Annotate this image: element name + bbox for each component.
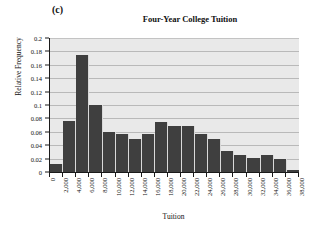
x-tick-label: 22,000: [193, 178, 200, 196]
x-tick-label: 34,000: [272, 178, 279, 196]
histogram-bar: [261, 155, 274, 172]
x-tick-label: 6,000: [88, 178, 95, 193]
histogram-bar: [50, 164, 63, 172]
histogram-bar: [129, 139, 142, 173]
x-tick-mark: [206, 173, 207, 177]
x-tick-mark: [246, 173, 247, 177]
x-tick-mark: [128, 173, 129, 177]
x-tick-label: 16,000: [154, 178, 161, 196]
x-axis-ticks: 02,0004,0006,0008,00010,00012,00014,0001…: [49, 173, 298, 213]
x-tick-mark: [75, 173, 76, 177]
y-tick-label: 0.14: [31, 75, 42, 82]
histogram-bar: [142, 134, 155, 172]
histogram-bar: [234, 155, 247, 172]
x-tick-mark: [219, 173, 220, 177]
x-tick-label: 8,000: [101, 178, 108, 193]
histogram-bar: [89, 105, 102, 172]
x-tick-mark: [88, 173, 89, 177]
histogram-bar: [103, 132, 116, 172]
x-tick-label: 26,000: [219, 178, 226, 196]
x-tick-label: 4,000: [75, 178, 82, 193]
histogram-bar: [182, 126, 195, 172]
y-tick-label: 0.2: [34, 35, 42, 42]
x-tick-label: 30,000: [246, 178, 253, 196]
histogram-bar: [168, 126, 181, 172]
y-tick-label: 0.06: [31, 128, 42, 135]
y-tick-label: 0.08: [31, 115, 42, 122]
histogram-bar: [63, 121, 76, 172]
histogram-bar: [274, 159, 287, 172]
x-tick-label: 12,000: [128, 178, 135, 196]
x-tick-label: 38,000: [298, 178, 305, 196]
x-tick-mark: [259, 173, 260, 177]
histogram-bar: [195, 134, 208, 172]
histogram-bar: [221, 151, 234, 172]
x-tick-mark: [154, 173, 155, 177]
x-tick-mark: [62, 173, 63, 177]
y-tick-label: 0.16: [31, 61, 42, 68]
y-tick-label: 0.02: [31, 155, 42, 162]
x-tick-label: 18,000: [167, 178, 174, 196]
y-axis-ticks: 0.20.180.160.140.120.10.080.060.040.020: [0, 34, 49, 176]
x-tick-label: 14,000: [141, 178, 148, 196]
histogram-bar: [116, 134, 129, 172]
figure-panel: (c) Four-Year College Tuition Relative F…: [0, 0, 310, 228]
chart-title: Four-Year College Tuition: [80, 14, 300, 24]
x-axis-title: Tuition: [49, 212, 298, 221]
y-tick-label: 0.18: [31, 48, 42, 55]
x-tick-mark: [285, 173, 286, 177]
x-tick-label: 20,000: [180, 178, 187, 196]
histogram-bar: [208, 139, 221, 172]
x-tick-label: 10,000: [115, 178, 122, 196]
x-tick-label: 24,000: [206, 178, 213, 196]
plot-area: [49, 38, 299, 173]
x-tick-mark: [167, 173, 168, 177]
x-tick-mark: [298, 173, 299, 177]
histogram-bars: [50, 38, 299, 172]
y-tick-label: 0.12: [31, 88, 42, 95]
x-tick-label: 0: [49, 178, 56, 181]
y-tick-label: 0: [39, 169, 42, 176]
x-tick-mark: [193, 173, 194, 177]
x-tick-label: 2,000: [62, 178, 69, 193]
x-tick-mark: [101, 173, 102, 177]
x-tick-mark: [180, 173, 181, 177]
x-tick-label: 32,000: [259, 178, 266, 196]
x-tick-mark: [49, 173, 50, 177]
x-tick-label: 36,000: [285, 178, 292, 196]
panel-letter-label: (c): [52, 4, 63, 15]
y-tick-label: 0.1: [34, 102, 42, 109]
histogram-bar: [155, 122, 168, 172]
x-tick-mark: [141, 173, 142, 177]
histogram-bar: [247, 158, 260, 172]
histogram-bar: [76, 55, 89, 172]
x-tick-label: 28,000: [232, 178, 239, 196]
y-tick-label: 0.04: [31, 142, 42, 149]
x-tick-mark: [115, 173, 116, 177]
x-tick-mark: [232, 173, 233, 177]
x-tick-mark: [272, 173, 273, 177]
histogram-bar: [287, 170, 299, 172]
